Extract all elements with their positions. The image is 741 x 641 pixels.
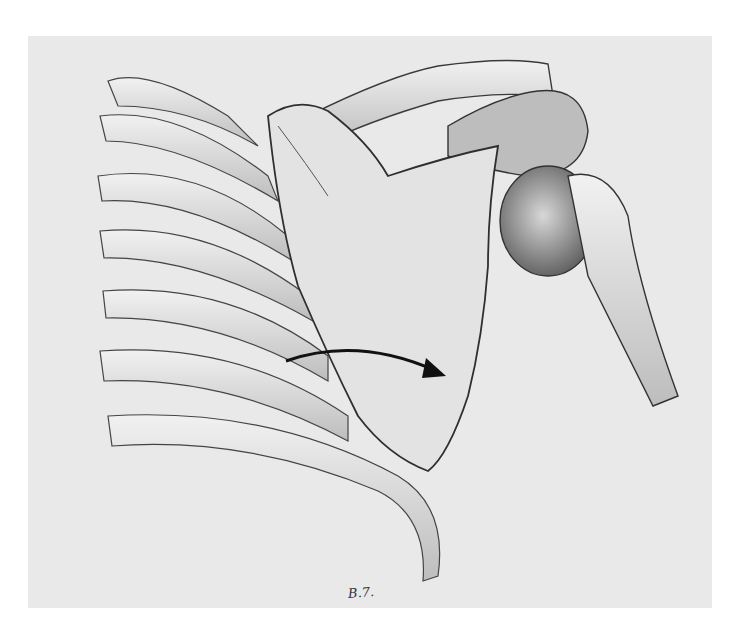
humerus xyxy=(568,174,678,406)
artist-signature: B.7. xyxy=(348,584,375,601)
shoulder-anatomy-drawing xyxy=(28,36,712,608)
illustration-plate xyxy=(28,36,712,608)
